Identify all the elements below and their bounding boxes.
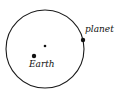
planet-label: planet [85, 24, 114, 34]
earth-label: Earth [28, 59, 55, 69]
orbit-circle [6, 10, 84, 88]
earth-dot [32, 54, 36, 58]
orbit-center-point [44, 45, 47, 48]
planet-dot [81, 38, 85, 42]
orbit-diagram: Earth planet [0, 0, 123, 95]
